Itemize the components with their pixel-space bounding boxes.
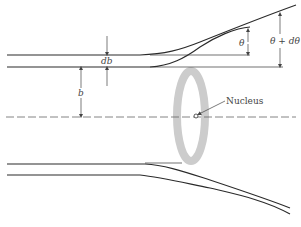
nucleus-label: Nucleus xyxy=(226,96,264,106)
annular-ring xyxy=(177,71,205,161)
b-label: b xyxy=(78,88,84,98)
lower-trajectory-inner xyxy=(7,175,290,214)
theta-dtheta-label: θ + dθ xyxy=(270,36,300,46)
upper-trajectory-inner xyxy=(7,27,250,67)
db-label: db xyxy=(101,56,113,66)
upper-trajectory-outer xyxy=(7,5,296,55)
theta-label: θ xyxy=(239,38,245,48)
nucleus-dot xyxy=(194,114,198,118)
scattering-diagram: db b θ θ + dθ Nucleus xyxy=(0,0,301,227)
lower-trajectory-outer xyxy=(7,164,290,208)
